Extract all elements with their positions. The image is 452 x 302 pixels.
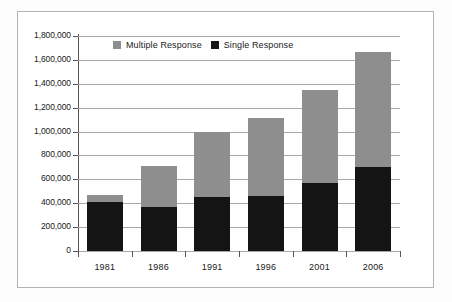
bar-segment-multiple-response	[302, 90, 338, 183]
legend-item-single-response: Single Response	[211, 40, 294, 50]
y-axis-labels: 0200,000400,000600,000800,0001,000,0001,…	[0, 0, 71, 302]
bar-segment-multiple-response	[141, 166, 177, 207]
x-axis-tick-mark	[400, 251, 401, 257]
bar-segment-single-response	[248, 196, 284, 251]
y-axis-tick-mark	[73, 132, 78, 133]
y-axis-tick-label: 1,800,000	[34, 30, 71, 40]
bar-stack	[355, 36, 391, 251]
chart-legend: Multiple Response Single Response	[113, 40, 293, 50]
bar-stack	[141, 36, 177, 251]
y-axis-tick-label: 0	[66, 245, 71, 255]
y-axis-tick-mark	[73, 36, 78, 37]
chart-figure: 0200,000400,000600,000800,0001,000,0001,…	[0, 0, 452, 302]
y-axis-tick-label: 1,000,000	[34, 126, 71, 136]
bar-segment-single-response	[141, 207, 177, 251]
x-axis-tick-label: 1996	[239, 262, 293, 272]
x-axis-tick-mark	[293, 251, 294, 257]
x-axis-tick-label: 2006	[346, 262, 400, 272]
x-axis-tick-label: 2001	[293, 262, 347, 272]
y-axis-tick-mark	[73, 60, 78, 61]
y-axis-tick-label: 800,000	[41, 149, 71, 159]
bar-segment-single-response	[302, 183, 338, 251]
y-axis-tick-label: 1,600,000	[34, 54, 71, 64]
gridline	[78, 36, 400, 37]
bar-segment-single-response	[355, 167, 391, 251]
x-axis-tick-mark	[239, 251, 240, 257]
gridline	[78, 203, 400, 204]
gridline	[78, 60, 400, 61]
bar-segment-multiple-response	[248, 118, 284, 196]
y-axis-tick-label: 200,000	[41, 221, 71, 231]
gridline	[78, 108, 400, 109]
y-axis-tick-label: 600,000	[41, 173, 71, 183]
y-axis-tick-label: 400,000	[41, 197, 71, 207]
bar-segment-multiple-response	[194, 132, 230, 197]
bar-stack	[302, 36, 338, 251]
y-axis-tick-mark	[73, 203, 78, 204]
x-axis-tick-mark	[78, 251, 79, 257]
y-axis-tick-mark	[73, 179, 78, 180]
bar-stack	[87, 36, 123, 251]
x-axis-tick-label: 1981	[78, 262, 132, 272]
x-axis-tick-label: 1986	[132, 262, 186, 272]
x-axis-tick-mark	[132, 251, 133, 257]
bar-stack	[194, 36, 230, 251]
y-axis-tick-mark	[73, 155, 78, 156]
y-axis-tick-mark	[73, 84, 78, 85]
x-axis-tick-mark	[185, 251, 186, 257]
legend-swatch-multiple-icon	[113, 41, 121, 49]
legend-label-multiple: Multiple Response	[126, 40, 202, 50]
legend-label-single: Single Response	[224, 40, 294, 50]
x-axis-tick-label: 1991	[185, 262, 239, 272]
bar-segment-single-response	[194, 197, 230, 251]
gridline	[78, 84, 400, 85]
y-axis-tick-mark	[73, 108, 78, 109]
gridline	[78, 155, 400, 156]
gridline	[78, 179, 400, 180]
bar-segment-single-response	[87, 202, 123, 251]
plot-area	[78, 36, 400, 251]
y-axis-tick-label: 1,200,000	[34, 102, 71, 112]
bar-segment-multiple-response	[355, 52, 391, 168]
x-axis-tick-mark	[346, 251, 347, 257]
y-axis-tick-mark	[73, 227, 78, 228]
y-axis-tick-label: 1,400,000	[34, 78, 71, 88]
bar-stack	[248, 36, 284, 251]
gridline	[78, 132, 400, 133]
legend-swatch-single-icon	[211, 41, 219, 49]
legend-item-multiple-response: Multiple Response	[113, 40, 202, 50]
gridline	[78, 227, 400, 228]
bar-segment-multiple-response	[87, 195, 123, 202]
